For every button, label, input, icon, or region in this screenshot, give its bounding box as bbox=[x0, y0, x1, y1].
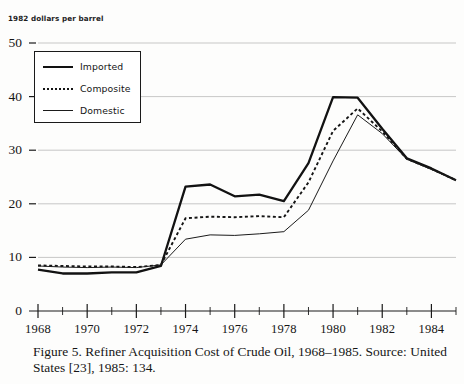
x-axis-label: 1984 bbox=[408, 322, 454, 337]
series-line-composite bbox=[38, 108, 456, 267]
y-axis-label: 0 bbox=[0, 303, 22, 319]
y-axis-title: 1982 dollars per barrel bbox=[8, 14, 103, 23]
x-axis-label: 1978 bbox=[261, 322, 307, 337]
y-axis-label: 20 bbox=[0, 196, 22, 212]
legend-item-domestic: Domestic bbox=[35, 99, 142, 121]
x-axis-label: 1976 bbox=[212, 322, 258, 337]
legend-label-domestic: Domestic bbox=[80, 105, 125, 116]
series-line-imported bbox=[38, 97, 456, 273]
y-axis-label: 50 bbox=[0, 35, 22, 51]
figure-container: 1982 dollars per barrel 01020304050 1968… bbox=[0, 0, 464, 384]
legend-item-imported: Imported bbox=[35, 55, 142, 77]
series-group bbox=[38, 97, 456, 273]
y-axis-label: 10 bbox=[0, 249, 22, 265]
legend-item-composite: Composite bbox=[35, 77, 142, 99]
y-axis-label: 40 bbox=[0, 89, 22, 105]
legend-label-imported: Imported bbox=[80, 61, 123, 72]
y-axis-label: 30 bbox=[0, 142, 22, 158]
legend-line-composite-icon bbox=[43, 82, 73, 94]
legend-label-composite: Composite bbox=[80, 83, 131, 94]
x-axis-label: 1970 bbox=[64, 322, 110, 337]
legend-line-imported-icon bbox=[43, 60, 73, 72]
x-axis-label: 1972 bbox=[113, 322, 159, 337]
x-axis-label: 1980 bbox=[310, 322, 356, 337]
series-line-domestic bbox=[38, 115, 456, 268]
x-axis-label: 1968 bbox=[15, 322, 61, 337]
figure-caption: Figure 5. Refiner Acquisition Cost of Cr… bbox=[33, 344, 453, 377]
x-axis-label: 1982 bbox=[359, 322, 405, 337]
chart-legend: Imported Composite Domestic bbox=[34, 51, 141, 123]
x-axis-label: 1974 bbox=[163, 322, 209, 337]
legend-line-domestic-icon bbox=[43, 104, 73, 116]
